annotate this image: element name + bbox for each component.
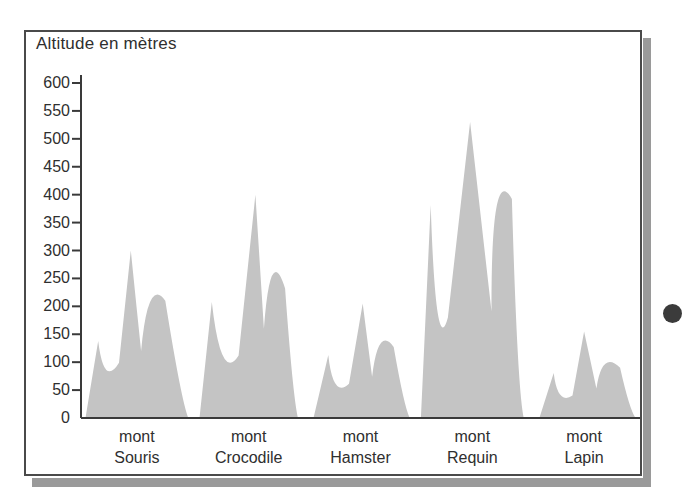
card-drop-shadow-right: [643, 38, 651, 487]
chart-card: [24, 30, 642, 476]
bullet-dot: [663, 304, 682, 323]
card-drop-shadow-bottom: [32, 478, 650, 487]
chart-title: Altitude en mètres: [36, 34, 177, 54]
